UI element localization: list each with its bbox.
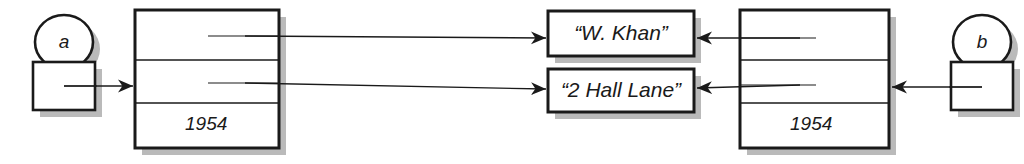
left-object-year-label: 1954 <box>185 113 227 135</box>
variable-b-label: b <box>953 31 1011 53</box>
variable-a-label: a <box>35 31 93 53</box>
diagram-vector-layer <box>0 0 1024 164</box>
variable-b[interactable] <box>949 15 1013 110</box>
arrow-left-object-name-to-string-name <box>245 36 546 38</box>
variable-b-box <box>951 62 1013 110</box>
right-object-year-label: 1954 <box>790 113 832 135</box>
arrow-left-object-address-to-string-address <box>245 83 546 89</box>
variable-a[interactable] <box>33 15 97 110</box>
string-address-label: “2 Hall Lane” <box>548 78 694 102</box>
diagram-canvas: a b 1954 1954 “W. Khan” “2 Hall Lane” <box>0 0 1024 164</box>
string-name-label: “W. Khan” <box>548 21 694 45</box>
